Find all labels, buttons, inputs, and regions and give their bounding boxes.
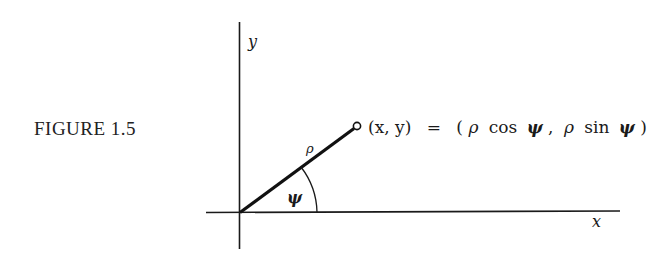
point-annotation: (x, y) = ( ρ cos ψ , ρ sin ψ ) [368,117,647,137]
x-axis [206,211,620,213]
x-axis-label: x [592,212,601,231]
psi-1: ψ [527,117,544,137]
equals-sign: = [427,117,441,137]
comma: , [548,117,553,137]
polar-coordinates-diagram: y x ρ ψ (x, y) = ( ρ cos ψ , ρ sin ψ ) [0,0,657,259]
sin-fn: sin [584,117,609,137]
paren-close: ) [640,117,647,137]
lhs: (x, y) [368,117,411,137]
paren-open: ( [456,117,463,137]
psi-2: ψ [619,117,636,137]
angle-arc [301,167,317,212]
point-marker [353,122,360,129]
psi-label: ψ [287,188,303,207]
svg-text:(x, y) = ( ρ: (x, y) = ( ρ cos ψ , ρ sin ψ ) [368,117,647,137]
rho-label: ρ [305,141,314,156]
rho-1: ρ [467,117,478,137]
rho-2: ρ [563,117,574,137]
cos-fn: cos [489,117,517,137]
y-axis-label: y [247,32,258,51]
